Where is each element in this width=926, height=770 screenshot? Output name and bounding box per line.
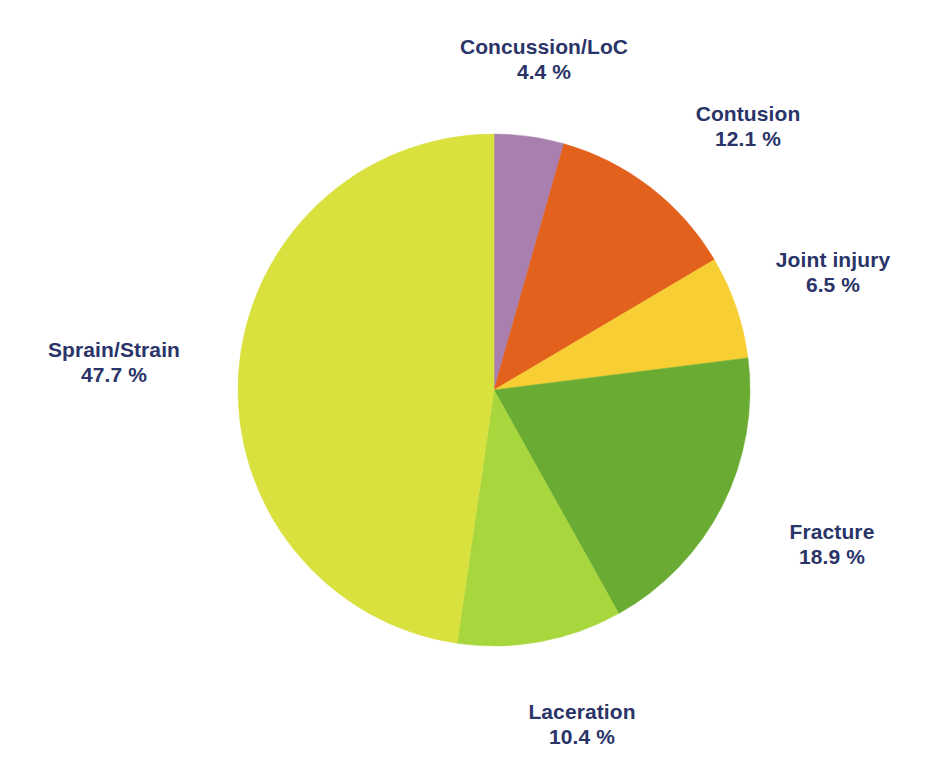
pie-label-concussion-loc-name: Concussion/LoC: [424, 34, 664, 59]
pie-chart-figure: Concussion/LoC 4.4 % Contusion 12.1 % Jo…: [0, 0, 926, 770]
pie-label-laceration-name: Laceration: [474, 699, 690, 724]
pie-label-contusion: Contusion 12.1 %: [636, 101, 860, 151]
pie-label-fracture-value: 18.9 %: [742, 544, 922, 569]
pie-label-fracture: Fracture 18.9 %: [742, 519, 922, 569]
pie-label-concussion-loc: Concussion/LoC 4.4 %: [424, 34, 664, 84]
pie-label-sprain-strain-value: 47.7 %: [14, 362, 214, 387]
pie-label-joint-injury-value: 6.5 %: [744, 272, 922, 297]
pie-label-fracture-name: Fracture: [742, 519, 922, 544]
pie-label-joint-injury: Joint injury 6.5 %: [744, 247, 922, 297]
pie-label-laceration: Laceration 10.4 %: [474, 699, 690, 749]
pie-slice-group: [238, 134, 750, 646]
pie-label-contusion-name: Contusion: [636, 101, 860, 126]
pie-label-sprain-strain-name: Sprain/Strain: [14, 337, 214, 362]
pie-label-joint-injury-name: Joint injury: [744, 247, 922, 272]
pie-slice-sprain-strain: [238, 134, 494, 643]
pie-label-sprain-strain: Sprain/Strain 47.7 %: [14, 337, 214, 387]
pie-label-laceration-value: 10.4 %: [474, 724, 690, 749]
pie-label-concussion-loc-value: 4.4 %: [424, 59, 664, 84]
pie-label-contusion-value: 12.1 %: [636, 126, 860, 151]
